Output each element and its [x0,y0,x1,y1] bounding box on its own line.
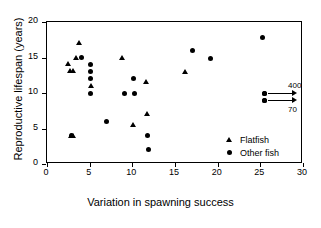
x-axis-tick-label: 0 [34,167,58,177]
y-axis-tick [42,164,46,165]
arrow-head-icon [292,97,297,103]
arrow-origin-point [262,98,267,103]
data-point-other-fish [260,35,265,40]
data-point-other-fish [104,119,109,124]
data-point-other-fish [131,76,136,81]
data-point-other-fish [88,91,93,96]
y-axis-tick [42,93,46,94]
y-axis-tick [42,129,46,130]
y-axis-tick-label: 0 [20,157,38,167]
data-point-other-fish [88,76,93,81]
data-point-flatfish [73,55,79,60]
y-axis-tick-label: 20 [20,15,38,25]
arrow-shaft [268,93,294,94]
data-point-flatfish [143,79,149,84]
arrow-value-label: 400 [288,81,301,90]
legend-label-other-fish: Other fish [240,148,279,158]
y-axis-tick-label: 15 [20,51,38,61]
scatter-plot-figure: 40070 Variation in spawning success Repr… [0,0,321,228]
data-point-other-fish [79,55,84,60]
data-point-flatfish [65,61,71,66]
circle-marker-icon [224,150,234,155]
x-axis-tick-label: 25 [247,167,271,177]
data-point-flatfish [88,83,94,88]
arrow-value-label: 70 [288,105,297,114]
x-axis-title: Variation in spawning success [0,196,321,208]
data-point-other-fish [190,48,195,53]
x-axis-tick-label: 30 [290,167,314,177]
data-point-flatfish [76,40,82,45]
y-axis-tick [42,58,46,59]
y-axis-tick [42,22,46,23]
data-point-other-fish [88,62,93,67]
data-point-flatfish [70,68,76,73]
legend-item-flatfish: Flatfish [224,133,279,146]
data-point-other-fish [132,91,137,96]
x-axis-tick-label: 5 [77,167,101,177]
data-point-other-fish [208,56,213,61]
y-axis-tick-label: 10 [20,86,38,96]
arrow-head-icon [292,90,297,96]
data-point-other-fish [145,133,150,138]
data-point-other-fish [88,69,93,74]
arrow-shaft [268,100,294,101]
data-point-other-fish [122,91,127,96]
data-point-flatfish [182,69,188,74]
legend-item-other-fish: Other fish [224,146,279,159]
x-axis-tick-label: 10 [119,167,143,177]
legend: Flatfish Other fish [224,133,279,159]
x-axis-tick-label: 20 [205,167,229,177]
data-point-flatfish [119,55,125,60]
data-point-flatfish [144,111,150,116]
legend-label-flatfish: Flatfish [240,135,269,145]
data-point-flatfish [130,122,136,127]
data-point-other-fish [146,147,151,152]
arrow-origin-point [262,91,267,96]
y-axis-tick-label: 5 [20,122,38,132]
x-axis-tick-label: 15 [162,167,186,177]
triangle-marker-icon [224,137,234,142]
